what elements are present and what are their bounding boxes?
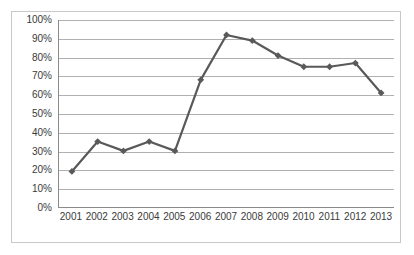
y-axis-tick-label: 80%	[32, 53, 52, 63]
x-axis-tick-label: 2005	[163, 212, 185, 222]
x-axis-tick-label: 2006	[189, 212, 211, 222]
y-axis-tick-label: 0%	[38, 203, 52, 213]
x-axis-tick-label: 2002	[86, 212, 108, 222]
data-point-marker	[120, 148, 127, 155]
chart-plot-wrapper: 0%10%20%30%40%50%60%70%80%90%100% 200120…	[12, 12, 400, 242]
plot-area	[58, 20, 394, 208]
x-axis-tick-label: 2009	[267, 212, 289, 222]
x-axis-tick-label: 2007	[215, 212, 237, 222]
y-axis-tick-label: 70%	[32, 71, 52, 81]
data-point-marker	[146, 138, 153, 145]
y-axis-tick-label: 10%	[32, 184, 52, 194]
x-axis-tick-label: 2003	[111, 212, 133, 222]
y-axis-tick-label: 90%	[32, 34, 52, 44]
data-point-marker	[172, 148, 179, 155]
x-axis-tick-label: 2012	[344, 212, 366, 222]
series-line	[72, 35, 381, 172]
series-markers	[68, 32, 384, 175]
data-point-marker	[326, 63, 333, 70]
x-axis-tick-label: 2001	[60, 212, 82, 222]
x-axis-tick-label: 2008	[241, 212, 263, 222]
y-axis-tick-label: 30%	[32, 147, 52, 157]
y-axis-tick-label: 40%	[32, 128, 52, 138]
y-axis-tick-label: 50%	[32, 109, 52, 119]
x-axis-tick-label: 2010	[292, 212, 314, 222]
y-axis-tick-labels: 0%10%20%30%40%50%60%70%80%90%100%	[12, 12, 56, 208]
x-axis-tick-label: 2004	[137, 212, 159, 222]
y-axis-tick-label: 100%	[26, 15, 52, 25]
x-axis-tick-labels: 2001200220032004200520062007200820092010…	[58, 212, 394, 232]
chart-container: 0%10%20%30%40%50%60%70%80%90%100% 200120…	[11, 11, 401, 243]
line-series-svg	[59, 20, 394, 207]
y-axis-tick-label: 60%	[32, 90, 52, 100]
x-axis-tick-label: 2013	[370, 212, 392, 222]
x-axis-tick-label: 2011	[319, 212, 341, 222]
data-point-marker	[300, 63, 307, 70]
y-axis-tick-label: 20%	[32, 165, 52, 175]
